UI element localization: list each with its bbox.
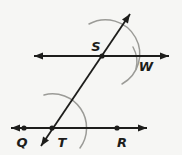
label-T: T	[58, 135, 68, 150]
geometry-diagram: SWQTR	[0, 0, 182, 155]
point-T	[49, 125, 54, 130]
upper-parallel-line-arrowhead-end	[160, 52, 169, 59]
transversal-line-arrowhead-start	[41, 137, 49, 146]
label-W: W	[139, 59, 154, 74]
lower-parallel-line-arrowhead-end	[138, 124, 147, 131]
label-R: R	[117, 135, 127, 150]
point-Q	[21, 125, 26, 130]
tick-arc-W	[133, 47, 137, 69]
point-R	[114, 125, 119, 130]
upper-parallel-line-arrowhead-start	[34, 52, 43, 59]
label-S: S	[91, 39, 100, 54]
label-Q: Q	[16, 135, 27, 150]
point-S	[99, 53, 104, 58]
parallel-line-construction-figure: SWQTR	[0, 0, 182, 155]
transversal-line-arrowhead-end	[122, 14, 130, 23]
lower-parallel-line-arrowhead-start	[11, 124, 20, 131]
